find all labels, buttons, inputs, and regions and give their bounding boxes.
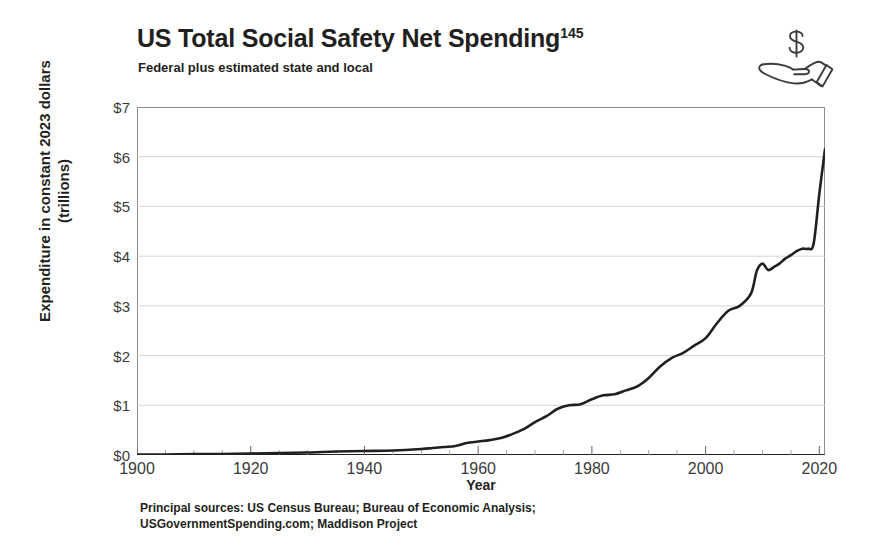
x-tick-label: 2020	[802, 460, 838, 478]
x-tick-label: 2000	[688, 460, 724, 478]
x-tick-label: 1980	[574, 460, 610, 478]
gridlines	[137, 107, 825, 405]
x-tick-label: 1940	[347, 460, 383, 478]
y-tick-label: $4	[88, 248, 130, 265]
y-axis-tick-labels: $7 $6 $5 $4 $3 $2 $1 $0	[82, 107, 130, 455]
y-tick-label: $1	[88, 397, 130, 414]
chart-canvas	[137, 107, 825, 455]
y-tick-label: $7	[88, 99, 130, 116]
page-title: US Total Social Safety Net Spending145	[137, 24, 584, 53]
chart-title-text: US Total Social Safety Net Spending	[137, 24, 560, 52]
chart-title-footnote-marker: 145	[560, 25, 583, 41]
data-series-line	[137, 149, 825, 454]
plot-area	[137, 107, 825, 455]
y-tick-label: $2	[88, 347, 130, 364]
x-axis-title: Year	[137, 477, 825, 493]
hand-holding-dollar-icon	[752, 24, 838, 94]
y-tick-label: $5	[88, 198, 130, 215]
x-tick-label: 1900	[119, 460, 155, 478]
y-axis-title: Expenditure in constant 2023 dollars (tr…	[35, 41, 73, 341]
chart-subtitle: Federal plus estimated state and local	[138, 60, 373, 75]
x-tick-label: 1960	[460, 460, 496, 478]
chart-figure: US Total Social Safety Net Spending145 F…	[0, 0, 893, 556]
source-note: Principal sources: US Census Bureau; Bur…	[140, 500, 536, 532]
y-tick-label: $6	[88, 148, 130, 165]
x-tick-label: 1920	[233, 460, 269, 478]
y-tick-label: $3	[88, 297, 130, 314]
